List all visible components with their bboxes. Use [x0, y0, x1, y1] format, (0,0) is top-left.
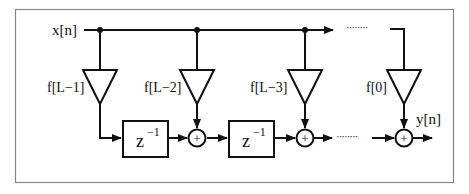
- svg-text:−1: −1: [253, 125, 266, 139]
- input-label: x[n]: [52, 22, 77, 38]
- plus-icon: +: [193, 131, 200, 146]
- tap-label: f[L−2]: [144, 80, 181, 95]
- output-label: y[n]: [416, 111, 441, 127]
- delay-block-1: z −1: [123, 121, 168, 157]
- tap-label: f[L−3]: [250, 80, 287, 95]
- adder-3: +: [396, 130, 413, 147]
- svg-text:−1: −1: [147, 125, 160, 139]
- fir-filter-diagram: x[n] ········ f[L−1] f[L−2] f[L−3] f[0] …: [0, 0, 469, 194]
- delay-block-2: z −1: [229, 121, 274, 157]
- plus-icon: +: [301, 131, 308, 146]
- adder-2: +: [297, 130, 314, 147]
- plus-icon: +: [400, 131, 407, 146]
- svg-text:z: z: [136, 131, 144, 151]
- tap-label: f[L−1]: [47, 80, 84, 95]
- svg-text:z: z: [242, 131, 250, 151]
- adder-1: +: [189, 130, 206, 147]
- input-ellipsis: ········: [346, 21, 368, 33]
- output-ellipsis: ········: [336, 130, 358, 142]
- tap-label: f[0]: [366, 80, 387, 95]
